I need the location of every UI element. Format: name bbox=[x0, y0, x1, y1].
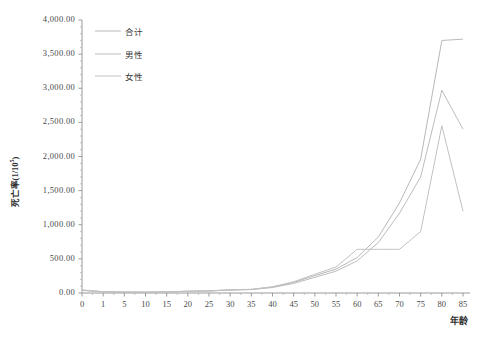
series-line bbox=[82, 126, 463, 292]
x-axis-tick-label: 85 bbox=[449, 299, 477, 309]
mortality-rate-line-chart: 死亡率(1/105) 4,000.003,500.003,000.002,500… bbox=[0, 0, 482, 347]
legend-item-label: 男性 bbox=[125, 48, 143, 60]
y-axis-title-tail: ) bbox=[10, 157, 20, 160]
legend-item-label: 合计 bbox=[125, 25, 143, 37]
series-line bbox=[82, 90, 463, 292]
legend-line-swatches bbox=[95, 31, 121, 76]
y-axis-tick-label: 2,500.00 bbox=[43, 116, 75, 126]
y-axis-tick-label: 1,000.00 bbox=[43, 219, 75, 229]
y-axis-tick-label: 3,000.00 bbox=[43, 82, 75, 92]
x-axis-major-ticks bbox=[82, 293, 463, 297]
y-axis-tick-label: 3,500.00 bbox=[43, 48, 75, 58]
y-axis-title-base: 死亡率(1/10 bbox=[10, 162, 20, 207]
axis-lines bbox=[82, 20, 470, 293]
y-axis-tick-label: 0.00 bbox=[59, 287, 75, 297]
y-axis-tick-label: 500.00 bbox=[50, 253, 75, 263]
y-axis-title-wrap: 死亡率(1/105) bbox=[6, 128, 22, 248]
y-axis-title-exponent: 5 bbox=[9, 159, 15, 162]
y-axis-tick-label: 2,000.00 bbox=[43, 151, 75, 161]
y-axis-tick-label: 4,000.00 bbox=[43, 14, 75, 24]
legend-item-label: 女性 bbox=[125, 70, 143, 82]
x-axis-title: 年龄 bbox=[450, 314, 468, 327]
y-axis-title: 死亡率(1/105) bbox=[8, 122, 20, 242]
y-axis-tick-label: 1,500.00 bbox=[43, 185, 75, 195]
